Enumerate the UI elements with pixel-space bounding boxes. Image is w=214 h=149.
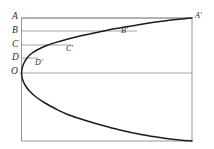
axis-label-d: D (12, 53, 19, 63)
axis-label-a: A (12, 12, 18, 22)
axis-label-o: O (11, 67, 18, 77)
frame-border (22, 18, 193, 141)
figure-canvas (0, 0, 214, 149)
axis-label-b: B (12, 26, 18, 36)
curve-label-d-prime: D' (35, 59, 43, 67)
parabola-upper-branch (22, 18, 193, 73)
parabola-lower-branch (22, 73, 193, 141)
axis-label-c: C (12, 40, 18, 50)
parabola-figure: ABCDO A'B'C'D' (0, 0, 214, 149)
curve-label-a-prime: A' (195, 12, 202, 20)
parabola-curve-group (22, 18, 193, 141)
curve-label-c-prime: C' (66, 45, 73, 53)
frame-rectangle (22, 18, 193, 141)
curve-label-b-prime: B' (121, 27, 128, 35)
